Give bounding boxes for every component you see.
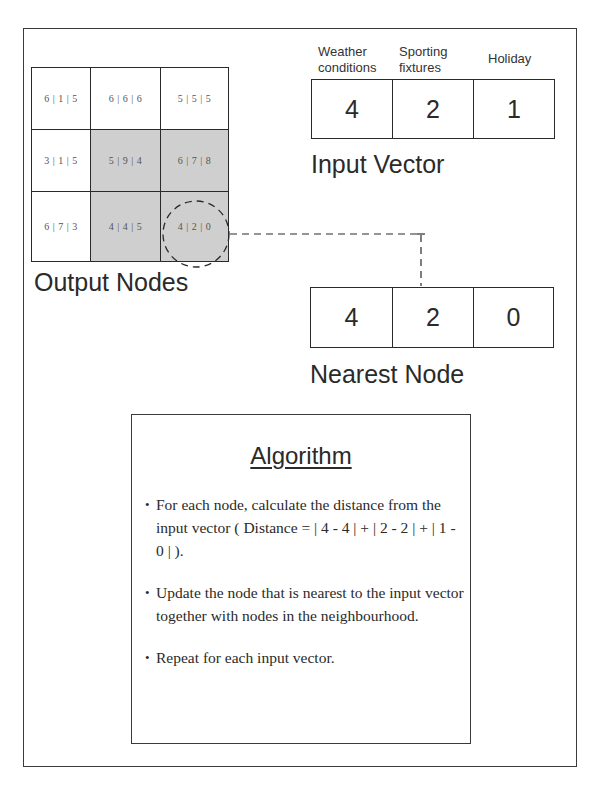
header-sporting: Sporting fixtures <box>399 44 447 76</box>
input-value: 2 <box>393 80 474 138</box>
algorithm-step: For each node, calculate the distance fr… <box>145 493 464 562</box>
input-vector-box: 4 2 1 <box>311 79 555 139</box>
algorithm-title: Algorithm <box>132 442 470 470</box>
input-vector-label: Input Vector <box>311 150 444 179</box>
algorithm-step: Repeat for each input vector. <box>145 646 464 669</box>
input-value: 1 <box>474 80 554 138</box>
algorithm-step: Update the node that is nearest to the i… <box>145 581 464 627</box>
nearest-node-box: 4 2 0 <box>310 287 554 348</box>
header-holiday: Holiday <box>488 51 531 67</box>
nearest-node-label: Nearest Node <box>310 360 464 389</box>
nearest-value: 4 <box>311 288 393 347</box>
algorithm-steps: For each node, calculate the distance fr… <box>145 493 464 688</box>
nearest-value: 0 <box>474 288 553 347</box>
header-weather: Weather conditions <box>318 44 377 76</box>
input-value: 4 <box>312 80 393 138</box>
algorithm-box: Algorithm For each node, calculate the d… <box>131 414 471 744</box>
highlight-circle-icon <box>163 201 229 267</box>
nearest-value: 2 <box>393 288 474 347</box>
